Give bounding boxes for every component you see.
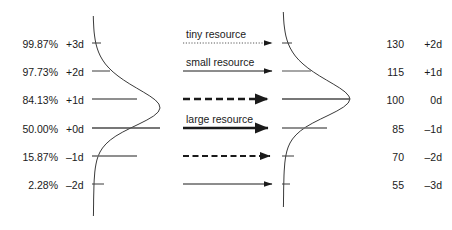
left-distribution-curve (94, 7, 162, 230)
normal-distribution-resource-diagram: 99.87% +3d 97.73% +2d 84.13% +1d 50.00% … (0, 0, 452, 230)
left-gaussian-curve (93, 16, 160, 216)
right-gaussian-curve (283, 12, 350, 207)
diagram-vector-layer (0, 0, 452, 230)
